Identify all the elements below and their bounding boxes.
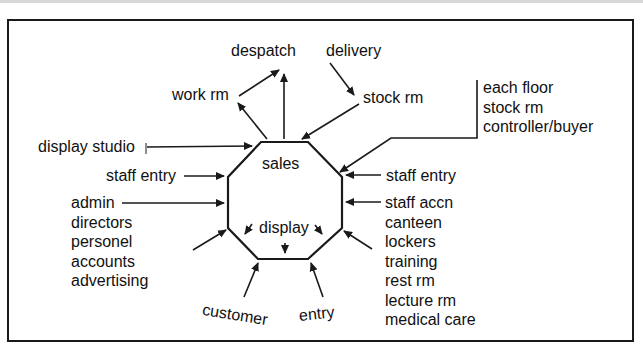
- floor-group: each floor stock rm controller/buyer: [483, 78, 593, 137]
- label-delivery: delivery: [326, 41, 381, 60]
- floor-group-item: stock rm: [483, 98, 593, 118]
- label-staff-entry-right: staff entry: [386, 166, 456, 185]
- admin-group-item: admin: [71, 193, 148, 213]
- label-display-studio: display studio: [38, 137, 135, 156]
- flow-diagram: [0, 0, 643, 353]
- label-entry: entry: [298, 302, 335, 325]
- admin-group-item: directors: [71, 213, 148, 233]
- admin-group: admin directors personel accounts advert…: [71, 193, 148, 291]
- label-stock-rm: stock rm: [363, 88, 423, 107]
- staff-group-item: training: [385, 252, 476, 272]
- staff-group-item: rest rm: [385, 271, 476, 291]
- label-staff-entry-left: staff entry: [106, 166, 176, 185]
- label-sales: sales: [262, 154, 299, 173]
- floor-group-item: each floor: [483, 78, 593, 98]
- staff-group-item: medical care: [385, 310, 476, 330]
- staff-group-item: lecture rm: [385, 291, 476, 311]
- staff-group-item: canteen: [385, 213, 476, 233]
- admin-group-item: personel: [71, 232, 148, 252]
- floor-group-item: controller/buyer: [483, 117, 593, 137]
- admin-group-item: accounts: [71, 252, 148, 272]
- label-display: display: [259, 218, 309, 237]
- staff-group: staff accn canteen lockers training rest…: [385, 193, 476, 330]
- staff-group-item: lockers: [385, 232, 476, 252]
- staff-group-item: staff accn: [385, 193, 476, 213]
- admin-group-item: advertising: [71, 271, 148, 291]
- label-despatch: despatch: [231, 41, 296, 60]
- label-work-rm: work rm: [172, 85, 229, 104]
